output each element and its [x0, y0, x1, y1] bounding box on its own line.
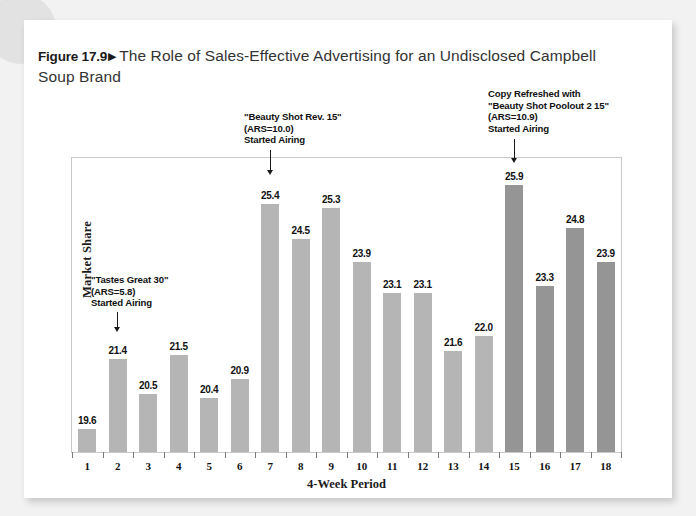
x-tick-label-14: 14	[478, 460, 489, 472]
x-tick-label-9: 9	[329, 460, 335, 472]
annotation-arrow-beauty-shot-poolout	[510, 139, 519, 163]
x-tick-label-4: 4	[176, 460, 182, 472]
x-tick-label-10: 10	[356, 460, 367, 472]
figure-page: Figure 17.9▶The Role of Sales-Effective …	[24, 20, 672, 498]
annotation-arrow-tastes-great	[113, 312, 122, 332]
arrow-shaft	[117, 312, 118, 328]
arrow-head-icon	[511, 158, 517, 163]
x-tick-label-12: 12	[417, 460, 428, 472]
x-tick-label-17: 17	[570, 460, 581, 472]
x-tick-label-8: 8	[298, 460, 304, 472]
x-tick-label-18: 18	[600, 460, 611, 472]
bar-chart: Market Share 4-Week Period 19.621.420.52…	[24, 20, 672, 498]
annotation-beauty-shot-poolout: Copy Refreshed with "Beauty Shot Poolout…	[488, 88, 609, 134]
annotation-tastes-great: "Tastes Great 30" (ARS=5.8) Started Airi…	[91, 274, 168, 309]
x-tick-label-15: 15	[509, 460, 520, 472]
arrow-head-icon	[267, 170, 273, 175]
arrow-head-icon	[114, 327, 120, 332]
x-tick-label-13: 13	[448, 460, 459, 472]
x-tick-label-6: 6	[237, 460, 243, 472]
x-tick-label-3: 3	[146, 460, 152, 472]
annotation-beauty-shot-rev15: "Beauty Shot Rev. 15" (ARS=10.0) Started…	[244, 111, 341, 146]
annotation-arrow-beauty-shot-rev15	[266, 150, 275, 175]
arrow-shaft	[270, 150, 271, 171]
x-tick-label-2: 2	[115, 460, 121, 472]
x-tick-label-11: 11	[387, 460, 397, 472]
x-tick-label-1: 1	[85, 460, 91, 472]
x-tick-label-5: 5	[207, 460, 213, 472]
arrow-shaft	[514, 139, 515, 159]
x-tick-label-16: 16	[539, 460, 550, 472]
x-tick-label-7: 7	[268, 460, 274, 472]
